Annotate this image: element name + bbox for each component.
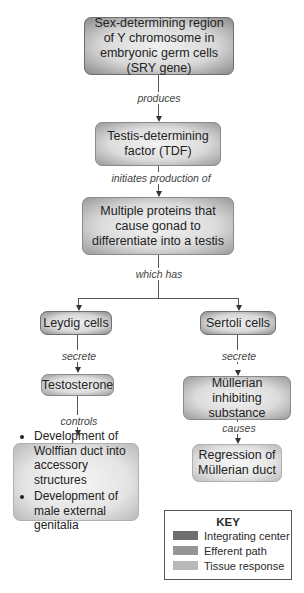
legend-label: Efferent path	[204, 545, 267, 557]
legend-label: Tissue response	[204, 560, 284, 572]
node-sry-gene-text: Sex-determining region of Y chromosome i…	[89, 16, 229, 76]
development-bullet-list: Development of Wolffian duct into access…	[22, 429, 138, 535]
edge-label-secrete-right: secrete	[212, 350, 266, 362]
legend-label: Integrating center	[204, 530, 290, 542]
edge-label-which-has: which has	[125, 268, 193, 280]
node-testosterone: Testosterone	[41, 374, 114, 396]
node-multiple-proteins: Multiple proteins that cause gonad to di…	[82, 197, 234, 255]
bullet-item: Development of male external genitalia	[34, 489, 138, 533]
node-wolffian-development: Development of Wolffian duct into access…	[13, 443, 139, 521]
connector	[78, 298, 239, 299]
legend-key: KEY Integrating center Efferent path Tis…	[164, 510, 292, 580]
swatch-efferent-path-icon	[173, 546, 198, 555]
node-sertoli-cells-text: Sertoli cells	[206, 316, 270, 331]
node-tdf: Testis-determining factor (TDF)	[95, 122, 221, 166]
arrow-icon	[75, 367, 81, 373]
node-mis-text: Müllerian inhibiting substance	[188, 376, 286, 421]
node-leydig-cells: Leydig cells	[40, 311, 112, 335]
node-mullerian-inhibiting-substance: Müllerian inhibiting substance	[183, 376, 291, 420]
node-multiple-proteins-text: Multiple proteins that cause gonad to di…	[89, 204, 227, 249]
edge-label-causes: causes	[212, 422, 266, 434]
node-leydig-cells-text: Leydig cells	[43, 316, 108, 331]
bullet-item: Development of Wolffian duct into access…	[34, 429, 138, 487]
swatch-integrating-center-icon	[173, 531, 198, 540]
node-sry-gene: Sex-determining region of Y chromosome i…	[84, 17, 234, 75]
edge-label-initiates: initiates production of	[97, 172, 225, 184]
edge-label-controls: controls	[52, 415, 106, 427]
swatch-tissue-response-icon	[173, 561, 198, 570]
legend-item-integrating-center: Integrating center	[173, 528, 291, 543]
legend-title: KEY	[165, 516, 291, 528]
node-regression-mullerian-duct: Regression of Müllerian duct	[192, 444, 282, 482]
node-sertoli-cells: Sertoli cells	[200, 311, 276, 335]
node-testosterone-text: Testosterone	[42, 378, 114, 393]
edge-label-produces: produces	[125, 92, 193, 104]
node-regression-text: Regression of Müllerian duct	[197, 448, 277, 478]
node-tdf-text: Testis-determining factor (TDF)	[102, 129, 214, 159]
legend-item-tissue-response: Tissue response	[173, 558, 291, 573]
legend-item-efferent-path: Efferent path	[173, 543, 291, 558]
edge-label-secrete-left: secrete	[52, 350, 106, 362]
